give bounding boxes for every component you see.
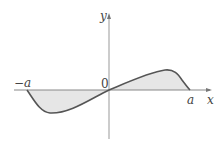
x-axis-arrow-icon	[206, 88, 212, 92]
label-origin: 0	[101, 77, 109, 91]
label-neg-a: −a	[14, 76, 31, 90]
shaded-region-positive	[109, 70, 190, 90]
label-y-axis: y	[99, 9, 107, 23]
odd-function-graph: −a 0 a x y	[0, 0, 223, 153]
label-pos-a: a	[187, 93, 194, 107]
label-x-axis: x	[207, 93, 214, 107]
y-axis-arrow-icon	[107, 13, 111, 19]
